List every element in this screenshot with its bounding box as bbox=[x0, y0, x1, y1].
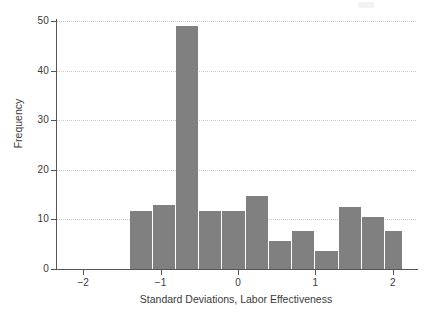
x-tick-label-2: 2 bbox=[378, 277, 408, 288]
bar bbox=[269, 241, 292, 269]
y-tick-label-0: 0 bbox=[13, 264, 49, 274]
bar bbox=[199, 211, 222, 268]
x-tick-label--1: −1 bbox=[146, 277, 176, 288]
bar bbox=[130, 211, 153, 268]
bar bbox=[153, 205, 176, 268]
bar bbox=[222, 211, 245, 268]
bar bbox=[176, 26, 199, 269]
bar bbox=[362, 217, 385, 269]
y-tick-label-10: 10 bbox=[13, 214, 49, 224]
y-tick-label-50: 50 bbox=[13, 16, 49, 26]
bar bbox=[339, 207, 362, 269]
x-tick--2 bbox=[83, 270, 84, 275]
y-axis-labels: 01020304050 bbox=[0, 0, 49, 318]
bar bbox=[246, 196, 269, 268]
scan-artifact bbox=[358, 2, 374, 8]
x-tick-label--2: −2 bbox=[68, 277, 98, 288]
x-tick-2 bbox=[393, 270, 394, 275]
x-tick-0 bbox=[238, 270, 239, 275]
bar-series bbox=[56, 21, 416, 269]
x-axis-line bbox=[55, 269, 418, 270]
x-tick--1 bbox=[161, 270, 162, 275]
y-axis-title: Frequency bbox=[13, 64, 24, 184]
bar bbox=[292, 231, 315, 268]
x-tick-1 bbox=[315, 270, 316, 275]
bar bbox=[315, 251, 338, 268]
histogram-figure: 01020304050 Frequency −2−1012 Standard D… bbox=[0, 0, 429, 318]
x-tick-label-0: 0 bbox=[223, 277, 253, 288]
x-tick-label-1: 1 bbox=[300, 277, 330, 288]
bar bbox=[385, 231, 403, 268]
y-tick-0 bbox=[51, 269, 56, 270]
x-axis-title: Standard Deviations, Labor Effectiveness bbox=[56, 293, 416, 305]
